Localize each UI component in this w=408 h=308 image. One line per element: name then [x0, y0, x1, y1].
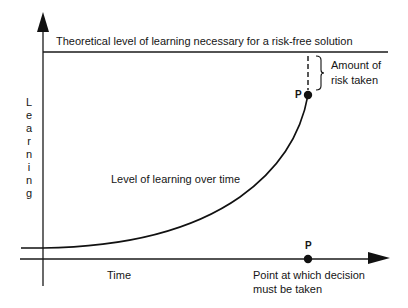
- y-axis-arrow-icon: [37, 12, 49, 32]
- y-axis-letter: i: [24, 161, 34, 174]
- risk-free-level-label: Theoretical level of learning necessary …: [56, 35, 353, 48]
- learning-curve: [21, 95, 308, 248]
- decision-point-top-dot: [304, 91, 312, 99]
- y-axis-letter: g: [24, 187, 34, 200]
- curve-label: Level of learning over time: [111, 173, 240, 186]
- point-bottom-label: P: [305, 240, 312, 251]
- risk-label-line2: risk taken: [331, 74, 378, 87]
- y-axis-letter: n: [24, 148, 34, 161]
- decision-label-line1: Point at which decision: [253, 269, 365, 282]
- risk-brace-icon: [316, 56, 324, 90]
- point-top-label: P: [295, 89, 302, 100]
- y-axis-letter: a: [24, 122, 34, 135]
- decision-label-line2: must be taken: [253, 283, 322, 296]
- y-axis-letter: e: [24, 109, 34, 122]
- x-axis-label: Time: [107, 269, 131, 282]
- decision-point-bottom-dot: [304, 255, 312, 263]
- x-axis-arrow-icon: [368, 252, 390, 264]
- y-axis-letter: L: [24, 96, 34, 109]
- y-axis-label: L e a r n i n g: [24, 96, 34, 200]
- y-axis-letter: n: [24, 174, 34, 187]
- risk-label-line1: Amount of: [331, 59, 381, 72]
- y-axis-letter: r: [24, 135, 34, 148]
